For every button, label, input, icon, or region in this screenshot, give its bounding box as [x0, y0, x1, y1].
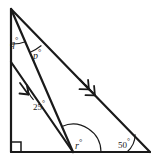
angle-label-25-text: 25: [33, 102, 42, 112]
parallel-arrow-single: [20, 83, 29, 95]
degree-symbol-r: °: [79, 137, 82, 147]
degree-symbol-50: °: [127, 137, 130, 146]
geometry-figure: q° p° 25° r° 50°: [0, 0, 159, 160]
angle-label-25: 25°: [33, 100, 45, 112]
angle-label-p: p°: [33, 48, 41, 61]
degree-symbol-25: °: [42, 99, 45, 108]
angle-label-50-text: 50: [118, 140, 127, 150]
figure-canvas: [0, 0, 159, 160]
angle-label-q: q°: [10, 36, 18, 49]
angle-label-r: r°: [75, 138, 82, 151]
angle-label-50: 50°: [118, 138, 130, 150]
degree-symbol-p: °: [38, 47, 41, 57]
parallel-arrow-double: [80, 80, 95, 96]
right-angle-icon: [11, 142, 21, 152]
cevian-apex-to-base: [11, 9, 73, 152]
degree-symbol-q: °: [15, 35, 18, 45]
